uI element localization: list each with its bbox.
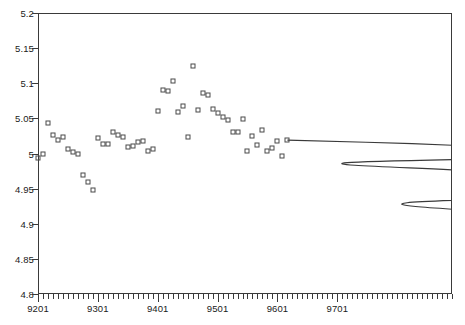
x-axis-minor-tick — [178, 294, 179, 299]
data-point-marker — [140, 138, 145, 143]
x-axis-minor-tick — [347, 294, 348, 299]
x-axis-minor-tick — [243, 294, 244, 299]
x-axis-tick-label: 9701 — [326, 303, 348, 314]
x-axis-minor-tick — [397, 294, 398, 299]
data-point-marker — [250, 133, 255, 138]
data-point-marker — [270, 145, 275, 150]
data-point-marker — [50, 132, 55, 137]
x-axis-minor-tick — [198, 294, 199, 299]
x-axis-minor-tick — [407, 294, 408, 299]
x-axis-minor-tick — [83, 294, 84, 299]
x-axis-minor-tick — [208, 294, 209, 299]
x-axis-minor-tick — [442, 294, 443, 299]
data-point-marker — [275, 138, 280, 143]
data-point-marker — [40, 152, 45, 157]
x-axis-minor-tick — [43, 294, 44, 299]
x-axis-minor-tick — [48, 294, 49, 299]
x-axis-minor-tick — [223, 294, 224, 299]
data-point-marker — [235, 130, 240, 135]
x-axis-minor-tick — [108, 294, 109, 299]
data-point-marker — [205, 93, 210, 98]
x-axis-minor-tick — [432, 294, 433, 299]
x-axis-minor-tick — [73, 294, 74, 299]
x-axis-minor-tick — [402, 294, 403, 299]
x-axis-minor-tick — [213, 294, 214, 299]
x-axis-minor-tick — [417, 294, 418, 299]
chart-figure: 4.84.854.94.9555.055.15.155.2 9201930194… — [0, 0, 465, 325]
data-point-marker — [190, 63, 195, 68]
x-axis-minor-tick — [93, 294, 94, 299]
x-axis-major-tick — [337, 294, 338, 302]
x-axis-minor-tick — [163, 294, 164, 299]
x-axis-minor-tick — [382, 294, 383, 299]
data-point-marker — [45, 121, 50, 126]
data-point-marker — [280, 153, 285, 158]
data-point-marker — [120, 134, 125, 139]
x-axis-minor-tick — [307, 294, 308, 299]
data-point-marker — [240, 117, 245, 122]
x-axis-minor-tick — [257, 294, 258, 299]
data-point-marker — [195, 107, 200, 112]
x-axis-minor-tick — [352, 294, 353, 299]
x-axis-minor-tick — [128, 294, 129, 299]
x-axis-minor-tick — [327, 294, 328, 299]
x-axis-minor-tick — [133, 294, 134, 299]
x-axis-minor-tick — [138, 294, 139, 299]
x-axis-minor-tick — [238, 294, 239, 299]
x-axis-minor-tick — [272, 294, 273, 299]
data-point-marker — [155, 108, 160, 113]
x-axis-minor-tick — [437, 294, 438, 299]
x-axis-minor-tick — [427, 294, 428, 299]
data-point-marker — [165, 88, 170, 93]
x-axis-tick-label: 9401 — [147, 303, 169, 314]
x-axis-tick-label: 9601 — [267, 303, 289, 314]
data-point-marker — [90, 188, 95, 193]
x-axis-minor-tick — [183, 294, 184, 299]
x-axis-major-tick — [98, 294, 99, 302]
x-axis-minor-tick — [233, 294, 234, 299]
x-axis-minor-tick — [452, 294, 453, 299]
x-axis-minor-tick — [412, 294, 413, 299]
data-point-marker — [180, 103, 185, 108]
x-axis-minor-tick — [148, 294, 149, 299]
x-axis-minor-tick — [302, 294, 303, 299]
x-axis-minor-tick — [392, 294, 393, 299]
data-point-marker — [75, 151, 80, 156]
data-point-marker — [225, 118, 230, 123]
x-axis-minor-tick — [297, 294, 298, 299]
x-axis-minor-tick — [292, 294, 293, 299]
x-axis-minor-tick — [118, 294, 119, 299]
x-axis-minor-tick — [362, 294, 363, 299]
x-axis-minor-tick — [287, 294, 288, 299]
forecast-line — [287, 140, 452, 239]
x-axis-major-tick — [158, 294, 159, 302]
x-axis-major-tick — [277, 294, 278, 302]
x-axis-minor-tick — [357, 294, 358, 299]
x-axis-tick-label: 9301 — [87, 303, 109, 314]
x-axis-minor-tick — [173, 294, 174, 299]
x-axis-minor-tick — [78, 294, 79, 299]
x-axis-minor-tick — [447, 294, 448, 299]
x-axis-minor-tick — [267, 294, 268, 299]
plot-area — [38, 13, 452, 294]
x-axis-minor-tick — [228, 294, 229, 299]
data-point-marker — [150, 147, 155, 152]
data-point-marker — [85, 179, 90, 184]
data-point-marker — [170, 79, 175, 84]
x-axis-minor-tick — [188, 294, 189, 299]
data-point-marker — [80, 172, 85, 177]
x-axis-minor-tick — [342, 294, 343, 299]
x-axis-minor-tick — [123, 294, 124, 299]
x-axis-tick-label: 9501 — [207, 303, 229, 314]
x-axis-major-tick — [38, 294, 39, 302]
data-point-marker — [175, 110, 180, 115]
x-axis-minor-tick — [322, 294, 323, 299]
data-point-marker — [245, 149, 250, 154]
x-axis-minor-tick — [63, 294, 64, 299]
data-point-marker — [255, 143, 260, 148]
x-axis-minor-tick — [367, 294, 368, 299]
x-axis-minor-tick — [193, 294, 194, 299]
x-axis-minor-tick — [317, 294, 318, 299]
x-axis-minor-tick — [168, 294, 169, 299]
x-axis-minor-tick — [377, 294, 378, 299]
